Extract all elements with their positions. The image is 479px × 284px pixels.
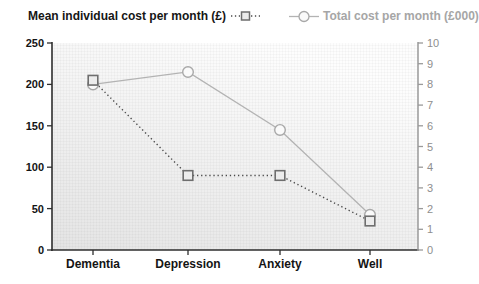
left-axis-tick-label: 200	[26, 78, 44, 90]
right-axis-tick-label: 10	[427, 37, 439, 49]
right-axis-tick-label: 8	[427, 78, 433, 90]
individual-cost-point-well	[365, 216, 375, 226]
left-axis-tick-label: 100	[26, 161, 44, 173]
individual-cost-point-dementia	[88, 75, 98, 85]
right-axis-tick-label: 9	[427, 58, 433, 70]
left-axis-tick-label: 250	[26, 37, 44, 49]
left-axis-tick-label: 50	[32, 203, 44, 215]
x-axis-category-label: Depression	[155, 257, 220, 271]
right-axis-tick-label: 3	[427, 182, 433, 194]
right-axis-tick-label: 0	[427, 244, 433, 256]
right-axis-tick-label: 4	[427, 161, 433, 173]
total-cost-point-depression	[183, 67, 194, 78]
individual-cost-point-anxiety	[275, 171, 285, 181]
individual-cost-point-depression	[183, 171, 193, 181]
x-axis-category-label: Well	[358, 257, 382, 271]
x-axis-category-label: Anxiety	[258, 257, 302, 271]
right-axis-tick-label: 5	[427, 141, 433, 153]
right-axis-tick-label: 7	[427, 99, 433, 111]
right-axis-tick-label: 6	[427, 120, 433, 132]
right-axis-tick-label: 2	[427, 203, 433, 215]
x-axis-category-label: Dementia	[66, 257, 120, 271]
plot-grid-texture	[52, 43, 418, 250]
left-axis-tick-label: 0	[38, 244, 44, 256]
total-cost-point-anxiety	[275, 125, 286, 136]
right-axis-tick-label: 1	[427, 223, 433, 235]
left-axis-tick-label: 150	[26, 120, 44, 132]
